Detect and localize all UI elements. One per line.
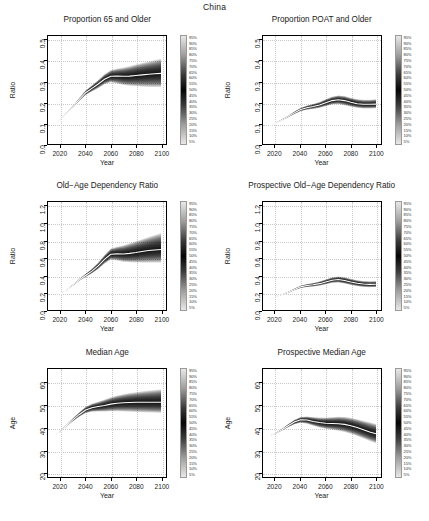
legend-label: 75% <box>404 59 412 63</box>
x-tick-mark <box>111 478 112 481</box>
x-axis-label: Year <box>47 325 167 332</box>
legend-label: 25% <box>404 450 412 454</box>
y-tick-label: 0.0 <box>39 145 46 154</box>
legend-label: 35% <box>404 105 412 109</box>
y-tick-label: 0.8 <box>39 241 46 250</box>
fan-chart-bands <box>263 369 381 477</box>
panel-prospective-old-age-dependency-ratio: Prospective Old−Age Dependency Ratio0.00… <box>215 181 429 354</box>
legend-prospective-median-age: 95%90%85%80%75%70%65%60%55%50%45%40%35%3… <box>395 368 423 478</box>
legend-label: 80% <box>404 386 412 390</box>
legend-label: 35% <box>189 105 197 109</box>
y-axis-label: Age <box>9 417 16 429</box>
y-tick-label: 30 <box>253 451 260 458</box>
legend-label: 10% <box>189 134 197 138</box>
x-tick-mark <box>274 478 275 481</box>
x-tick-mark <box>60 145 61 148</box>
legend-label: 25% <box>404 283 412 287</box>
legend-label: 70% <box>189 65 197 69</box>
legend-label: 40% <box>189 100 197 104</box>
fan-chart-bands <box>48 36 166 144</box>
y-tick-label: 0.4 <box>39 276 46 285</box>
y-tick-label: 50 <box>253 405 260 412</box>
legend-label: 45% <box>189 260 197 264</box>
fan-band <box>269 277 376 299</box>
fan-band <box>269 276 376 298</box>
x-tick-label: 2020 <box>52 483 67 490</box>
y-tick-label: 0.2 <box>253 103 260 112</box>
y-axis-label: Age <box>223 417 230 429</box>
y-tick-label: 1.2 <box>253 205 260 214</box>
legend-label: 90% <box>404 208 412 212</box>
legend-label-list: 95%90%85%80%75%70%65%60%55%50%45%40%35%3… <box>404 368 424 478</box>
y-tick-label: 0.0 <box>253 311 260 320</box>
x-tick-label: 2040 <box>78 483 93 490</box>
x-tick-label: 2020 <box>267 483 282 490</box>
legend-label: 55% <box>189 415 197 419</box>
legend-label: 75% <box>404 225 412 229</box>
panel-median-age: Median Age203040506020202040206020802100… <box>0 348 215 521</box>
legend-label: 20% <box>404 289 412 293</box>
legend-label: 25% <box>189 450 197 454</box>
legend-label: 75% <box>189 59 197 63</box>
legend-label: 35% <box>404 438 412 442</box>
x-tick-label: 2080 <box>129 150 144 157</box>
legend-colorbar <box>395 368 402 478</box>
y-tick-label: 60 <box>253 382 260 389</box>
x-tick-mark <box>60 311 61 314</box>
legend-label: 10% <box>189 300 197 304</box>
legend-label: 10% <box>404 300 412 304</box>
y-tick-label: 0.6 <box>39 258 46 267</box>
y-tick-label: 0.5 <box>253 39 260 48</box>
x-tick-label: 2040 <box>78 150 93 157</box>
y-tick-label: 40 <box>253 428 260 435</box>
legend-label: 70% <box>189 398 197 402</box>
legend-label: 50% <box>189 421 197 425</box>
panel-proportion-poat-and-older: Proportion POAT and Older0.00.10.20.30.4… <box>215 15 429 188</box>
plot-box <box>262 368 382 478</box>
legend-old-age-dependency-ratio: 95%90%85%80%75%70%65%60%55%50%45%40%35%3… <box>180 201 208 311</box>
x-tick-label: 2080 <box>129 483 144 490</box>
y-tick-label: 40 <box>39 428 46 435</box>
legend-label-list: 95%90%85%80%75%70%65%60%55%50%45%40%35%3… <box>404 201 424 311</box>
legend-proportion-poat-and-older: 95%90%85%80%75%70%65%60%55%50%45%40%35%3… <box>395 35 423 145</box>
legend-label: 40% <box>189 266 197 270</box>
legend-label: 20% <box>404 456 412 460</box>
y-tick-label: 50 <box>39 405 46 412</box>
y-tick-label: 1.0 <box>253 223 260 232</box>
panel-proportion-65-and-older: Proportion 65 and Older0.00.10.20.30.40.… <box>0 15 215 188</box>
y-tick-label: 0.0 <box>253 145 260 154</box>
legend-label: 10% <box>404 134 412 138</box>
legend-label: 10% <box>404 467 412 471</box>
x-tick-label: 2060 <box>103 150 118 157</box>
legend-label: 50% <box>404 88 412 92</box>
legend-label: 55% <box>189 248 197 252</box>
legend-label: 20% <box>189 289 197 293</box>
legend-label: 40% <box>189 433 197 437</box>
legend-label: 85% <box>404 213 412 217</box>
fan-chart-bands <box>48 369 166 477</box>
plot-area-proportion-poat-and-older <box>262 35 382 145</box>
x-tick-label: 2060 <box>103 483 118 490</box>
legend-label: 50% <box>189 254 197 258</box>
legend-label: 30% <box>189 444 197 448</box>
y-tick-label: 0.2 <box>253 293 260 302</box>
x-tick-mark <box>325 145 326 148</box>
x-tick-label: 2100 <box>369 150 384 157</box>
x-tick-mark <box>162 478 163 481</box>
legend-prospective-old-age-dependency-ratio: 95%90%85%80%75%70%65%60%55%50%45%40%35%3… <box>395 201 423 311</box>
legend-label: 55% <box>189 82 197 86</box>
y-tick-label: 0.1 <box>39 124 46 133</box>
legend-label: 45% <box>189 427 197 431</box>
x-tick-label: 2080 <box>344 150 359 157</box>
panel-title-prospective-old-age-dependency-ratio: Prospective Old−Age Dependency Ratio <box>215 181 429 190</box>
panel-title-old-age-dependency-ratio: Old−Age Dependency Ratio <box>0 181 215 190</box>
legend-label: 85% <box>189 380 197 384</box>
x-tick-label: 2060 <box>103 316 118 323</box>
x-tick-mark <box>162 145 163 148</box>
y-tick-label: 20 <box>39 473 46 480</box>
x-tick-label: 2020 <box>267 150 282 157</box>
legend-label: 65% <box>404 237 412 241</box>
x-tick-label: 2100 <box>369 316 384 323</box>
y-tick-label: 1.0 <box>39 223 46 232</box>
x-tick-mark <box>274 145 275 148</box>
